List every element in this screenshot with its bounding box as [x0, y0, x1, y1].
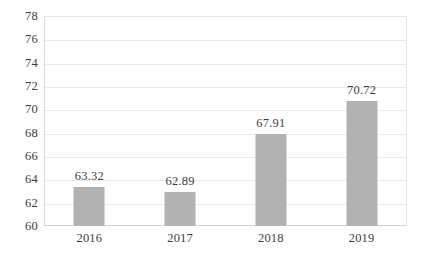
x-tick-label: 2018 — [226, 231, 317, 246]
bar-value-label: 62.89 — [166, 175, 195, 188]
x-tick-label: 2017 — [135, 231, 226, 246]
x-axis: 2016201720182019 — [44, 231, 407, 251]
y-tick-label: 68 — [0, 126, 38, 139]
bar-chart: 78767472706866646260 63.3262.8967.9170.7… — [0, 0, 426, 267]
y-axis: 78767472706866646260 — [0, 16, 38, 226]
bar — [346, 101, 377, 226]
y-tick-label: 76 — [0, 33, 38, 46]
bar-value-label: 67.91 — [256, 117, 285, 130]
bar-group: 63.32 — [44, 16, 135, 226]
y-tick-label: 74 — [0, 56, 38, 69]
y-tick-label: 64 — [0, 173, 38, 186]
x-tick-label: 2019 — [316, 231, 407, 246]
y-tick-label: 62 — [0, 196, 38, 209]
y-tick-label: 66 — [0, 150, 38, 163]
bar — [74, 187, 105, 226]
bar — [165, 192, 196, 226]
y-tick-label: 70 — [0, 103, 38, 116]
bar — [255, 134, 286, 226]
bars-layer: 63.3262.8967.9170.72 — [44, 16, 407, 226]
y-tick-label: 78 — [0, 10, 38, 23]
y-tick-label: 60 — [0, 220, 38, 233]
bar-group: 62.89 — [135, 16, 226, 226]
bar-value-label: 70.72 — [347, 84, 376, 97]
bar-group: 67.91 — [226, 16, 317, 226]
bar-value-label: 63.32 — [75, 170, 104, 183]
y-tick-label: 72 — [0, 80, 38, 93]
bar-group: 70.72 — [316, 16, 407, 226]
x-tick-label: 2016 — [44, 231, 135, 246]
